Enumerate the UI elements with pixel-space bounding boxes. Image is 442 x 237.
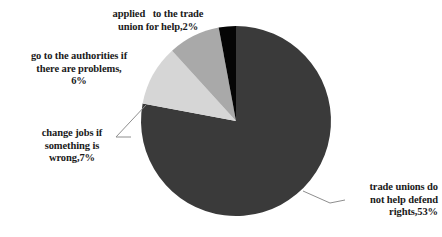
pie-chart: applied to the trade union for help,2% g… [0,0,442,237]
pie-label-trade-unions-do-not-help: trade unions do not help defend rights,5… [342,181,438,219]
pie-label-go-to-authorities: go to the authorities if there are probl… [8,50,150,88]
leader-line-trade-unions [303,191,345,203]
pie-label-change-jobs: change jobs if something is wrong,7% [14,127,130,165]
pie-label-applied-to-trade-union: applied to the trade union for help,2% [84,8,232,33]
